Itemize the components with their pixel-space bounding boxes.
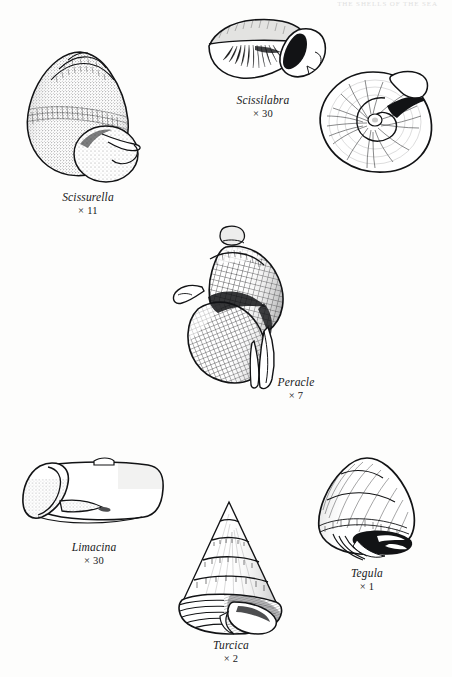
- magnification-label-scissilabra: × 30: [197, 108, 329, 121]
- scissilabra-illustration: [197, 12, 329, 90]
- turcica-illustration: [172, 498, 290, 636]
- magnification-label-turcica: × 2: [172, 653, 290, 666]
- genus-label-tegula: Tegula: [311, 566, 423, 580]
- tegula-illustration: [311, 452, 423, 570]
- genus-label-peracle: Peracle: [248, 375, 344, 389]
- genus-label-scissilabra: Scissilabra: [197, 93, 329, 107]
- figure-turcica: [172, 498, 290, 636]
- peracle-illustration: [168, 225, 298, 390]
- figure-peracle: [168, 225, 298, 390]
- figure-scissilabra-apical: [311, 66, 443, 178]
- figure-scissurella: [18, 46, 158, 191]
- limacina-illustration: [18, 455, 170, 537]
- genus-label-turcica: Turcica: [172, 638, 290, 652]
- figure-scissilabra: [197, 12, 329, 90]
- illustration-plate: THE SHELLS OF THE SEA: [0, 0, 452, 677]
- scissilabra-apical-illustration: [311, 66, 443, 178]
- caption-turcica: Turcica × 2: [172, 638, 290, 666]
- genus-label-limacina: Limacina: [18, 540, 170, 554]
- running-head: THE SHELLS OF THE SEA: [337, 0, 438, 7]
- caption-peracle: Peracle × 7: [248, 375, 344, 403]
- magnification-label-tegula: × 1: [311, 581, 423, 594]
- caption-scissilabra: Scissilabra × 30: [197, 93, 329, 121]
- figure-tegula: [311, 452, 423, 570]
- genus-label-scissurella: Scissurella: [18, 190, 158, 204]
- caption-limacina: Limacina × 30: [18, 540, 170, 568]
- figure-limacina: [18, 455, 170, 537]
- magnification-label-peracle: × 7: [248, 390, 344, 403]
- magnification-label-limacina: × 30: [18, 555, 170, 568]
- caption-scissurella: Scissurella × 11: [18, 190, 158, 218]
- caption-tegula: Tegula × 1: [311, 566, 423, 594]
- magnification-label-scissurella: × 11: [18, 205, 158, 218]
- scissurella-illustration: [18, 46, 158, 191]
